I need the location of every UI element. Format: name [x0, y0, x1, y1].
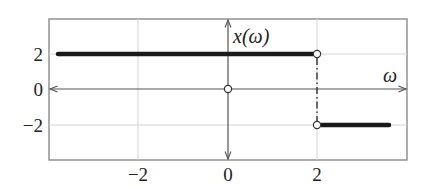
open-circle-lower-start [313, 121, 320, 128]
open-circle-origin [224, 85, 231, 92]
x-tick-label-neg2: −2 [128, 164, 148, 185]
y-tick-label-neg2: −2 [23, 115, 43, 136]
x-tick-label-2: 2 [312, 164, 322, 185]
x-tick-label-0: 0 [223, 164, 233, 185]
y-tick-label-2: 2 [34, 44, 44, 65]
y-axis-label: x(ω) [232, 25, 270, 48]
y-tick-label-0: 0 [34, 79, 44, 100]
step-function-chart: x(ω) ω 2 0 −2 −2 0 2 [0, 0, 430, 188]
open-circle-upper-end [313, 50, 320, 57]
x-axis-label: ω [383, 64, 397, 86]
